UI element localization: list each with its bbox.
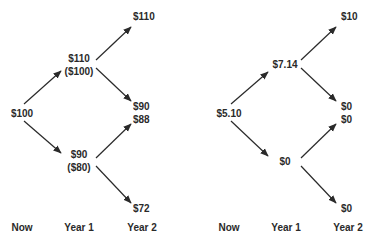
axis-now: Now: [11, 222, 32, 234]
node-y2-ud: $90: [133, 101, 150, 113]
arrow-up-up-r: [301, 27, 336, 60]
arrow-down-down: [96, 166, 131, 203]
node-y2-dd-r: $0: [341, 203, 352, 215]
node-now-r: $5.10: [216, 108, 241, 120]
node-y1-up: $110: [68, 53, 90, 65]
node-y2-uu: $110: [133, 11, 155, 23]
axis-now-r: Now: [218, 222, 239, 234]
arrow-down-up: [96, 124, 131, 158]
arrow-up-up: [96, 27, 131, 60]
node-y1-down: $90: [71, 149, 88, 161]
arrow-down-up-r: [301, 124, 336, 158]
axis-year2: Year 2: [127, 222, 156, 234]
arrow-down-down-r: [301, 166, 336, 203]
arrow-up-down-r: [301, 68, 336, 101]
node-y1-down-r: $0: [279, 156, 290, 168]
node-y2-ud-r: $0: [341, 101, 352, 113]
node-y1-down-sub: ($80): [67, 162, 90, 174]
node-y2-uu-r: $10: [341, 11, 358, 23]
node-y1-up-r: $7.14: [272, 59, 297, 71]
arrow-now-up: [24, 71, 61, 104]
arrow-up-down: [96, 68, 131, 101]
arrow-now-down-r: [231, 121, 268, 156]
axis-year1-r: Year 1: [271, 222, 300, 234]
axis-year2-r: Year 2: [333, 222, 362, 234]
node-y2-du-r: $0: [341, 114, 352, 126]
arrow-now-up-r: [231, 72, 268, 104]
node-now: $100: [11, 108, 33, 120]
node-y1-up-sub: ($100): [65, 66, 94, 78]
axis-year1: Year 1: [64, 222, 93, 234]
arrow-now-down: [24, 121, 61, 153]
node-y2-dd: $72: [133, 203, 150, 215]
arrows-layer: [0, 0, 371, 241]
node-y2-du: $88: [133, 114, 150, 126]
